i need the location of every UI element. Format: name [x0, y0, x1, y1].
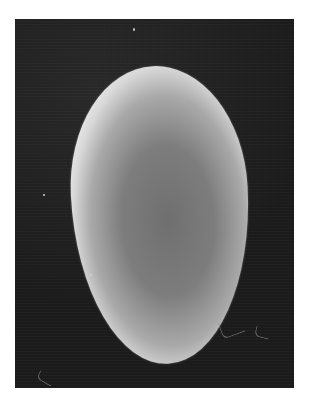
micrograph	[15, 19, 294, 388]
debris-speck	[43, 194, 45, 196]
debris-speck	[133, 28, 135, 31]
debris-speck	[90, 274, 92, 276]
